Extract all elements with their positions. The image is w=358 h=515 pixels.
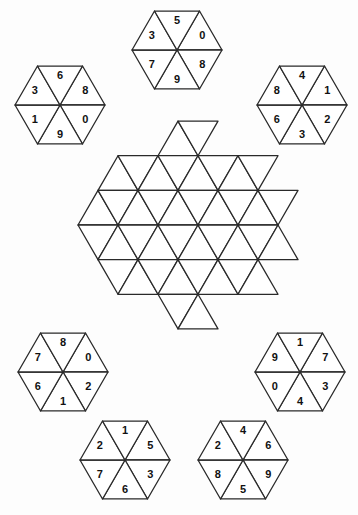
piece-number-label: 9 (57, 128, 63, 140)
piece-number-label: 0 (82, 113, 88, 125)
piece-number-label: 1 (324, 84, 330, 96)
puzzle-diagram: 0897358091361236840216787340915367216958… (0, 0, 358, 515)
piece-number-label: 2 (85, 380, 91, 392)
piece-number-label: 0 (199, 29, 205, 41)
piece-number-label: 9 (174, 73, 180, 85)
piece-number-label: 8 (274, 84, 280, 96)
piece-number-label: 0 (272, 380, 278, 392)
piece-number-label: 7 (97, 468, 103, 480)
piece-number-label: 6 (265, 439, 271, 451)
piece-number-label: 6 (274, 113, 280, 125)
piece-number-label: 3 (32, 84, 38, 96)
piece-number-label: 8 (60, 336, 66, 348)
piece-number-label: 3 (149, 29, 155, 41)
piece-number-label: 6 (122, 483, 128, 495)
piece-number-label: 5 (147, 439, 153, 451)
piece-number-label: 2 (215, 439, 221, 451)
piece-number-label: 1 (297, 336, 303, 348)
piece-number-label: 2 (324, 113, 330, 125)
piece-number-label: 1 (32, 113, 38, 125)
piece-number-label: 7 (149, 58, 155, 70)
piece-number-label: 6 (35, 380, 41, 392)
piece-number-label: 5 (240, 483, 246, 495)
piece-number-label: 8 (199, 58, 205, 70)
piece-number-label: 0 (85, 351, 91, 363)
piece-number-label: 1 (60, 395, 66, 407)
piece-number-label: 5 (174, 14, 180, 26)
piece-number-label: 2 (97, 439, 103, 451)
piece-number-label: 7 (35, 351, 41, 363)
piece-number-label: 4 (299, 69, 306, 81)
piece-number-label: 9 (265, 468, 271, 480)
puzzle-canvas: 0897358091361236840216787340915367216958… (0, 0, 358, 515)
piece-number-label: 3 (299, 128, 305, 140)
piece-number-label: 3 (147, 468, 153, 480)
piece-number-label: 8 (215, 468, 221, 480)
piece-number-label: 7 (322, 351, 328, 363)
piece-number-label: 4 (297, 395, 304, 407)
piece-number-label: 6 (57, 69, 63, 81)
piece-number-label: 1 (122, 424, 128, 436)
piece-number-label: 4 (240, 424, 247, 436)
piece-number-label: 8 (82, 84, 88, 96)
piece-number-label: 3 (322, 380, 328, 392)
piece-number-label: 9 (272, 351, 278, 363)
